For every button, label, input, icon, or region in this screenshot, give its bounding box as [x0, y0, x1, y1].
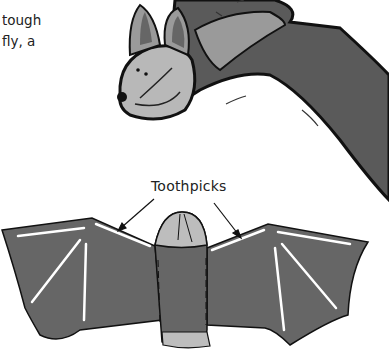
text-line-1: tough — [2, 10, 41, 31]
flying-bat-illustration — [117, 0, 389, 200]
toothpicks-label: Toothpicks — [151, 178, 227, 194]
bat-puppet-wings-illustration — [2, 199, 368, 348]
body-text-fragment: tough fly, a — [2, 10, 41, 52]
text-line-2: fly, a — [2, 31, 41, 52]
